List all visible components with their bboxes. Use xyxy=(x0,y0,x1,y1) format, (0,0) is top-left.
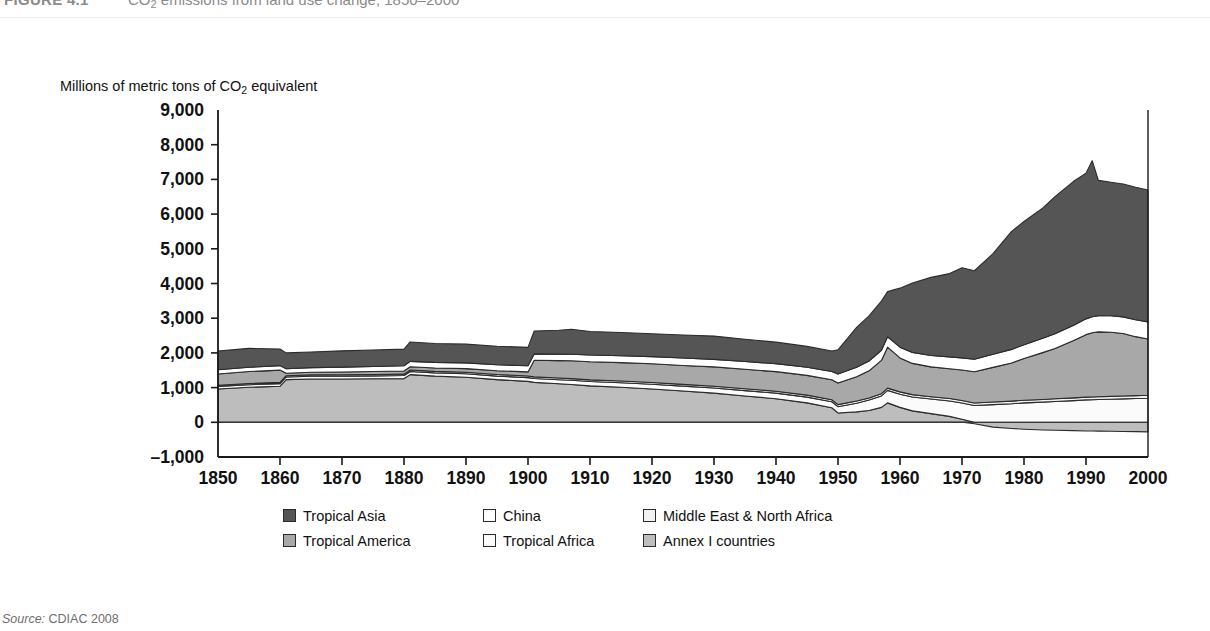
legend-item-middle-east-north-africa[interactable]: Middle East & North Africa xyxy=(643,508,923,524)
x-tick-label-1990: 1990 xyxy=(1067,468,1106,488)
chart-legend: Tropical Asia China Middle East & North … xyxy=(283,503,923,553)
x-tick-label-1850: 1850 xyxy=(199,468,238,488)
legend-swatch-tropical-africa xyxy=(483,534,496,547)
x-tick-label-1870: 1870 xyxy=(323,468,362,488)
legend-swatch-tropical-asia xyxy=(283,509,296,522)
y-tick-label-2000: 2,000 xyxy=(160,343,204,363)
source-note: Source: CDIAC 2008 xyxy=(2,612,119,626)
legend-label-annex-i-countries: Annex I countries xyxy=(663,533,775,549)
legend-swatch-china xyxy=(483,509,496,522)
legend-item-china[interactable]: China xyxy=(483,508,643,524)
y-tick-label--1000: –1,000 xyxy=(150,447,204,467)
legend-item-annex-i-countries[interactable]: Annex I countries xyxy=(643,533,923,549)
x-tick-label-1960: 1960 xyxy=(881,468,920,488)
y-tick-label-3000: 3,000 xyxy=(160,308,204,328)
legend-item-tropical-asia[interactable]: Tropical Asia xyxy=(283,508,483,524)
area-annex-i-countries-neg xyxy=(218,422,1148,432)
legend-label-middle-east-north-africa: Middle East & North Africa xyxy=(663,508,832,524)
x-tick-label-1970: 1970 xyxy=(943,468,982,488)
y-tick-label-4000: 4,000 xyxy=(160,274,204,294)
y-tick-label-8000: 8,000 xyxy=(160,135,204,155)
legend-item-tropical-america[interactable]: Tropical America xyxy=(283,533,483,549)
area-tropical-asia-pos xyxy=(218,161,1148,374)
source-label: Source: xyxy=(2,612,45,626)
legend-item-tropical-africa[interactable]: Tropical Africa xyxy=(483,533,643,549)
x-axis-tick-labels: 1850186018701880189019001910192019301940… xyxy=(199,468,1168,488)
chart-areas xyxy=(218,161,1148,432)
legend-label-tropical-africa: Tropical Africa xyxy=(503,533,594,549)
y-tick-label-6000: 6,000 xyxy=(160,204,204,224)
legend-swatch-annex-i-countries xyxy=(643,534,656,547)
y-tick-label-7000: 7,000 xyxy=(160,169,204,189)
legend-label-china: China xyxy=(503,508,541,524)
x-tick-label-2000: 2000 xyxy=(1129,468,1168,488)
y-tick-label-0: 0 xyxy=(194,412,204,432)
y-axis-tick-labels: 9,0008,0007,0006,0005,0004,0003,0002,000… xyxy=(150,100,204,467)
y-tick-label-5000: 5,000 xyxy=(160,239,204,259)
x-tick-label-1980: 1980 xyxy=(1005,468,1044,488)
legend-label-tropical-asia: Tropical Asia xyxy=(303,508,385,524)
x-tick-label-1950: 1950 xyxy=(819,468,858,488)
x-tick-label-1920: 1920 xyxy=(633,468,672,488)
legend-swatch-middle-east-north-africa xyxy=(643,509,656,522)
x-tick-label-1880: 1880 xyxy=(385,468,424,488)
x-tick-label-1860: 1860 xyxy=(261,468,300,488)
figure-page: FIGURE 4.1 CO2 emissions from land use c… xyxy=(0,0,1210,631)
source-text: CDIAC 2008 xyxy=(45,612,119,626)
y-tick-label-9000: 9,000 xyxy=(160,100,204,120)
x-tick-label-1890: 1890 xyxy=(447,468,486,488)
y-tick-label-1000: 1,000 xyxy=(160,378,204,398)
x-tick-label-1940: 1940 xyxy=(757,468,796,488)
legend-swatch-tropical-america xyxy=(283,534,296,547)
x-tick-label-1910: 1910 xyxy=(571,468,610,488)
x-tick-label-1930: 1930 xyxy=(695,468,734,488)
x-tick-label-1900: 1900 xyxy=(509,468,548,488)
legend-label-tropical-america: Tropical America xyxy=(303,533,410,549)
